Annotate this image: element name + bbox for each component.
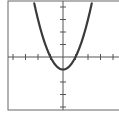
parabola-plot <box>0 0 119 116</box>
